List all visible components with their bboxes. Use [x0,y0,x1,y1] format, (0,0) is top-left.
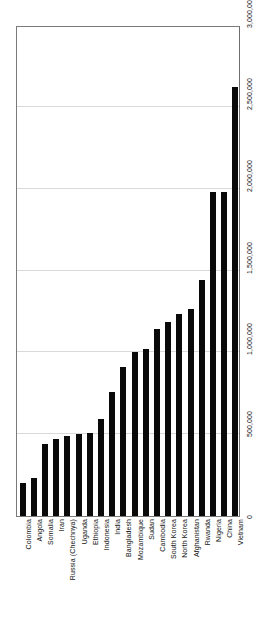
x-tick-label: Cambodia [159,519,166,552]
x-tick-label: Indonesia [103,519,110,550]
bar [132,352,138,516]
x-tick-label: Russia (Chechnya) [69,519,76,580]
x-tick-label: China [226,519,233,538]
bar [53,439,59,516]
y-axis: 0500,0001,000,0001,500,0002,000,0002,500… [240,0,272,637]
bar [232,87,238,516]
bar [176,314,182,516]
x-tick-label: India [114,519,121,535]
x-tick-label: Somalia [47,519,54,545]
bar [42,444,48,516]
x-tick-label: Nigeria [215,519,222,542]
x-tick-label: Uganda [81,519,88,544]
bar [76,434,82,516]
x-tick-label: South Korea [170,519,177,559]
y-tick-label: 2,000,000 [246,160,253,192]
x-tick-label: North Korea [181,519,188,558]
bar [199,280,205,516]
bar [20,483,26,516]
y-tick-label: 1,500,000 [246,241,253,273]
y-tick-label: 500,000 [246,411,253,437]
x-tick-label: Rwanda [204,519,211,545]
x-axis: ColombiaAngolaSomaliaIranRussia (Chechny… [16,519,240,637]
bar [165,322,171,516]
bar [120,367,126,516]
bar [87,433,93,516]
bar [221,192,227,516]
bar [98,419,104,516]
bar [210,192,216,516]
bar [31,478,37,516]
bar [154,329,160,516]
bar [143,349,149,516]
x-tick-label: Afghanistan [193,519,200,557]
plot-area [16,26,240,517]
bars-series [17,27,239,516]
y-tick-label: 3,000,000 [246,0,253,28]
x-tick-label: Ethiopia [92,519,99,545]
x-tick-label: Vietnam [237,519,244,545]
bar [64,436,70,516]
x-tick-label: Mozambique [137,519,144,560]
x-tick-label: Angola [36,519,43,541]
x-tick-label: Colombia [25,519,32,549]
bar [109,392,115,516]
x-tick-label: Iran [58,519,65,531]
x-tick-label: Sudan [148,519,155,540]
y-tick-label: 1,000,000 [246,323,253,355]
y-tick-label: 2,500,000 [246,78,253,110]
bar [188,309,194,516]
y-tick-label: 0 [246,515,253,519]
x-tick-label: Bangladesh [125,519,132,557]
bar-chart: 0500,0001,000,0001,500,0002,000,0002,500… [0,0,272,637]
